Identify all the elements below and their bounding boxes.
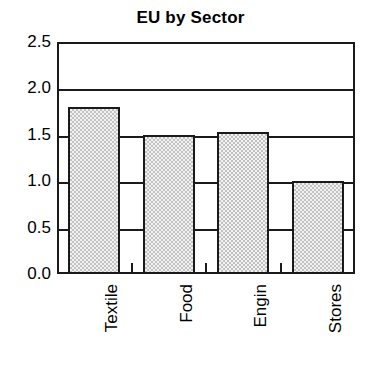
x-tick-label-stores: Stores [327,284,344,333]
y-tick-label: 1.5 [5,126,51,143]
x-tick-label-textile: Textile [103,284,120,332]
x-axis-tick [280,263,282,272]
bar-food [143,135,195,274]
y-tick-label: 0.5 [5,219,51,236]
y-tick-label: 2.5 [5,33,51,50]
y-tick-label: 2.0 [5,79,51,96]
bar-textile [68,107,120,274]
x-axis-tick [205,263,207,272]
x-tick-label-engin: Engin [252,284,269,327]
bar-engin [217,132,269,274]
bar-stores [292,181,344,274]
bar-chart: EU by Sector 0.00.51.01.52.02.5 TextileF… [0,0,381,374]
x-tick-label-food: Food [178,284,195,323]
bars-group [57,42,355,274]
chart-title: EU by Sector [0,8,381,28]
y-tick-label: 1.0 [5,172,51,189]
x-axis-tick [131,263,133,272]
y-tick-label: 0.0 [5,265,51,282]
